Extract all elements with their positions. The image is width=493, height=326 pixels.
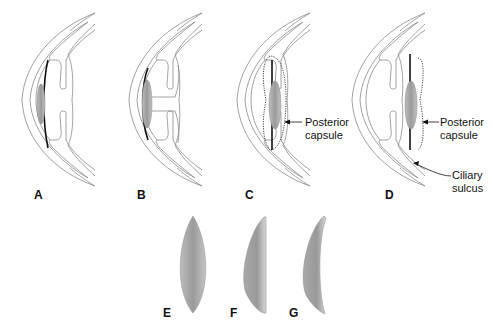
lens-g-meniscus: G xyxy=(289,216,326,320)
d-posterior-capsule-label-line2: capsule xyxy=(440,129,478,141)
d-ciliary-sulcus-label-line1: Ciliary xyxy=(452,169,483,181)
d-ciliary-sulcus-label-line2: sulcus xyxy=(452,182,484,194)
panel-a: A xyxy=(22,13,95,202)
lens-e-biconvex: E xyxy=(163,216,206,320)
iol-optic xyxy=(142,80,152,128)
panel-label-d: D xyxy=(385,188,394,202)
iol-diagram: A B Posterior capsule C Posterior capsul… xyxy=(0,0,493,326)
iol-optic xyxy=(269,81,281,129)
panel-d: Posterior capsule Ciliary sulcus D xyxy=(352,13,484,202)
panel-label-f: F xyxy=(230,306,237,320)
c-posterior-capsule-label-line1: Posterior xyxy=(305,116,349,128)
iol-optic xyxy=(37,84,45,124)
d-posterior-capsule-label-line1: Posterior xyxy=(440,116,484,128)
panel-label-e: E xyxy=(163,306,171,320)
panel-label-g: G xyxy=(289,306,298,320)
lens-f-planoconvex: F xyxy=(230,217,266,320)
panel-label-a: A xyxy=(34,188,43,202)
panel-b: B xyxy=(129,13,202,202)
c-posterior-capsule-label-line2: capsule xyxy=(305,129,343,141)
panel-label-c: C xyxy=(245,188,254,202)
panel-c: Posterior capsule C xyxy=(237,13,349,202)
panel-label-b: B xyxy=(137,188,146,202)
posterior-capsule xyxy=(418,58,423,150)
iol-optic xyxy=(405,81,417,129)
